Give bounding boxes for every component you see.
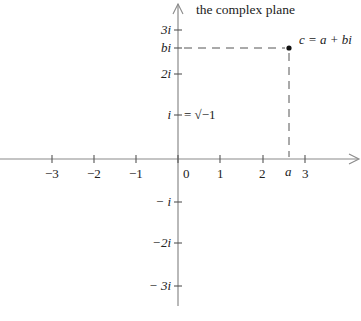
- y-tick-label-neg3i: − 3i: [149, 278, 172, 293]
- x-tick-label-neg2: −2: [87, 166, 101, 181]
- y-tick-label-3i: 3i: [160, 22, 172, 37]
- x-tick-label-3: 3: [302, 166, 309, 181]
- x-tick-label-neg1: −1: [129, 166, 143, 181]
- x-tick-label-1: 1: [217, 166, 224, 181]
- a-label: a: [285, 164, 292, 179]
- y-tick-label-2i: 2i: [161, 66, 172, 81]
- y-tick-label-i: i: [167, 107, 171, 122]
- y-tick-label-neg-i: − i: [155, 194, 171, 209]
- point-c-marker: [286, 45, 291, 50]
- x-tick-label-2: 2: [259, 166, 266, 181]
- y-tick-label-bi: bi: [161, 40, 172, 55]
- complex-plane-diagram: the complex plane −3 −2 −1 0 1 2 3 a 3i …: [0, 0, 361, 321]
- x-tick-label-neg3: −3: [45, 166, 59, 181]
- i-definition: = √−1: [184, 107, 216, 122]
- point-c-label: c = a + bi: [299, 32, 352, 47]
- diagram-title: the complex plane: [196, 2, 295, 17]
- x-tick-label-0: 0: [183, 166, 190, 181]
- y-tick-label-neg2i: −2i: [152, 235, 171, 250]
